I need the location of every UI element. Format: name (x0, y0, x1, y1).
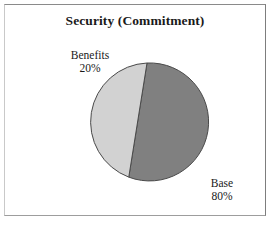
chart-frame: Security (Commitment) Benefits 20% Base … (4, 4, 266, 216)
pie-plot-area: Benefits 20% Base 80% (5, 5, 267, 217)
pie-label-base-name: Base (191, 177, 253, 190)
pie-label-benefits-name: Benefits (53, 49, 127, 62)
pie-label-benefits: Benefits 20% (53, 49, 127, 75)
pie-label-benefits-value: 20% (53, 62, 127, 75)
pie-label-base-value: 80% (191, 190, 253, 203)
pie-label-base: Base 80% (191, 177, 253, 203)
